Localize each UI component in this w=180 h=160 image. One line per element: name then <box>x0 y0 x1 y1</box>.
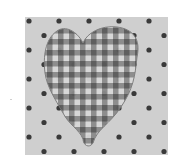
fabric-illustration <box>25 17 168 155</box>
speck <box>10 99 12 100</box>
fabric-swatch <box>25 17 168 155</box>
